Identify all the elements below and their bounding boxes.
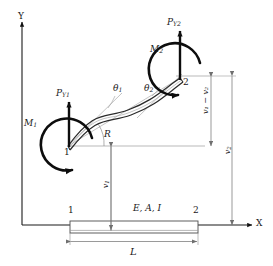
moment-m1-subscript: 1 [33,121,37,128]
moment-m1-symbol: M [24,118,33,128]
node-2-deformed-label: 2 [183,78,189,87]
undeformed-beam [70,221,198,233]
v2-subscript: 2 [226,146,232,149]
length-dimension [70,233,198,245]
deformed-centerline-lower [70,82,183,150]
length-label: L [130,247,137,257]
x-axis-label: X [256,219,262,228]
theta1-subscript: 1 [118,86,122,93]
moment-m2-symbol: M [150,44,159,54]
chord-angle-r-label: R [104,130,111,139]
moment-m1-label: M1 [24,119,37,128]
theta2-subscript: 2 [149,86,153,93]
theta1-arc [108,96,115,108]
coordinate-axes [22,22,252,225]
theta2-label: θ2 [144,84,153,93]
v2-dimension-label: v2 [224,143,233,157]
beam-element-diagram: Y X 1 2 1 2 PY1 PY2 M1 M2 θ1 θ2 R E, A, … [0,0,273,266]
force-py1-label: PY1 [56,89,70,98]
v1-dimension-label: v1 [102,177,111,191]
force-py2-label: PY2 [167,18,181,27]
beam-body [70,221,198,233]
deformed-centerline-mid [69,80,182,148]
v2-symbol: v [223,150,232,155]
v1-symbol: v [101,184,110,189]
theta1-label: θ1 [113,84,122,93]
y-axis-label: Y [18,12,24,21]
moment-m2-subscript: 2 [159,47,163,54]
deformed-beam-curve [68,78,183,150]
chord-line [68,78,180,146]
diagram-vector-layer [0,0,273,266]
force-py2-subscript: Y2 [173,20,181,27]
moment-m1 [41,119,92,171]
moment-m2-label: M2 [150,45,163,54]
node-1-deformed-label: 1 [64,148,70,157]
force-py1-subscript: Y1 [62,91,70,98]
node-1-original-label: 1 [68,206,74,215]
v1-minus-v2-dimension-label: v₁ − v₂ [202,100,210,114]
v1-subscript: 1 [104,180,110,183]
node-2-original-label: 2 [193,206,199,215]
moment-m1-arc [41,119,92,171]
beam-properties-label: E, A, I [133,204,161,213]
